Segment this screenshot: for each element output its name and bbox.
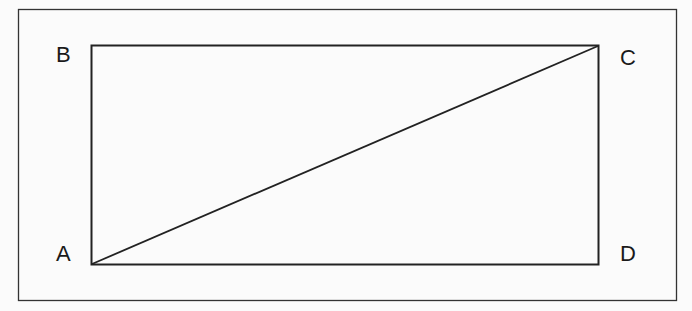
diagram-canvas: B C A D xyxy=(0,0,692,311)
vertex-label-d: D xyxy=(620,243,636,265)
vertex-label-a: A xyxy=(56,243,71,265)
diagonal-ac xyxy=(92,46,598,264)
outer-frame xyxy=(19,10,677,301)
vertex-label-c: C xyxy=(620,47,636,69)
vertex-label-b: B xyxy=(56,44,71,66)
diagram-graphic xyxy=(0,0,692,311)
